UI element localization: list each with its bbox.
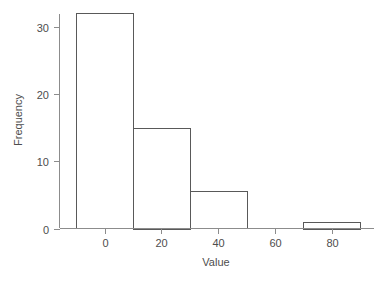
x-axis-ticks: 020406080: [102, 229, 338, 250]
y-tick-label: 30: [37, 22, 49, 34]
x-tick-label: 20: [155, 237, 167, 249]
y-axis-ticks: 0102030: [37, 22, 60, 236]
histogram-figure: 0102030 020406080 Frequency Value: [0, 0, 383, 283]
x-tick-label: 40: [212, 237, 224, 249]
y-tick-label: 20: [37, 89, 49, 101]
histogram-bar: [77, 14, 134, 229]
bar-series: [77, 14, 361, 230]
x-tick-label: 80: [326, 237, 338, 249]
histogram-bar: [191, 192, 248, 229]
histogram-plot-area: 0102030 020406080 Frequency Value: [0, 0, 383, 283]
y-tick-label: 0: [43, 224, 49, 236]
y-axis-title: Frequency: [12, 94, 24, 146]
x-tick-label: 60: [269, 237, 281, 249]
y-tick-label: 10: [37, 156, 49, 168]
histogram-bar: [134, 129, 191, 230]
x-axis-title: Value: [202, 256, 229, 268]
x-tick-label: 0: [102, 237, 108, 249]
